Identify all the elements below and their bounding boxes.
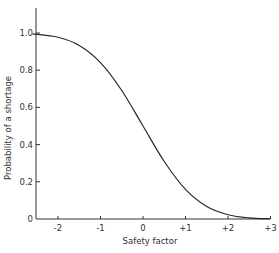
y-tick-label: 0.4 bbox=[19, 140, 33, 150]
x-tick-label: +2 bbox=[222, 223, 235, 233]
chart: 00.20.40.60.81.0 -2-10+1+2+3 Safety fact… bbox=[0, 0, 279, 253]
x-tick-label: 0 bbox=[140, 223, 145, 233]
x-axis-label: Safety factor bbox=[123, 236, 178, 246]
x-tick-label: -1 bbox=[96, 223, 104, 233]
x-tick-label: +1 bbox=[179, 223, 192, 233]
y-axis-label: Probability of a shortage bbox=[3, 76, 13, 180]
x-tick-label: +3 bbox=[264, 223, 277, 233]
y-tick-label: 0.8 bbox=[19, 65, 33, 75]
x-tick-label: -2 bbox=[54, 223, 62, 233]
probability-curve bbox=[33, 34, 271, 219]
y-tick-label: 1.0 bbox=[19, 28, 33, 38]
y-axis-ticks: 00.20.40.60.81.0 bbox=[19, 28, 40, 224]
y-tick-label: 0 bbox=[28, 214, 33, 224]
y-tick-label: 0.2 bbox=[19, 177, 33, 187]
y-tick-label: 0.6 bbox=[19, 102, 33, 112]
axes bbox=[36, 8, 270, 219]
